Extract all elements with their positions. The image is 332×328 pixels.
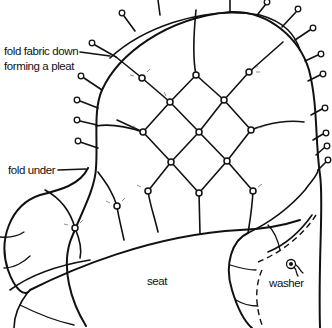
washer-icon bbox=[287, 260, 304, 277]
lower-left-seam bbox=[20, 305, 74, 325]
label-fold-under: fold under bbox=[8, 163, 55, 177]
label-washer: washer bbox=[269, 276, 304, 290]
chair-diagram: fold fabric down forming a pleat fold un… bbox=[0, 0, 332, 328]
pleat-leader-line bbox=[80, 52, 110, 56]
fold-under-leader-line bbox=[58, 169, 86, 170]
label-fold-fabric-down: fold fabric down bbox=[4, 44, 78, 58]
left-arm-front bbox=[10, 260, 90, 290]
tufting-grid bbox=[45, 10, 304, 258]
right-arm-stitch-2 bbox=[257, 270, 262, 325]
right-arm-panel-2 bbox=[236, 300, 258, 306]
left-arm-crease-2 bbox=[4, 256, 30, 268]
right-arm-top bbox=[248, 170, 318, 233]
right-arm-outline bbox=[229, 233, 252, 328]
left-arm-crease-1 bbox=[0, 232, 24, 237]
lower-left-front bbox=[14, 292, 28, 328]
upholstery-pins bbox=[74, 0, 331, 170]
tuft-buttons bbox=[72, 69, 256, 231]
right-arm-panel-1 bbox=[230, 265, 256, 270]
label-seat: seat bbox=[147, 274, 167, 288]
label-forming-a-pleat: forming a pleat bbox=[4, 59, 74, 73]
